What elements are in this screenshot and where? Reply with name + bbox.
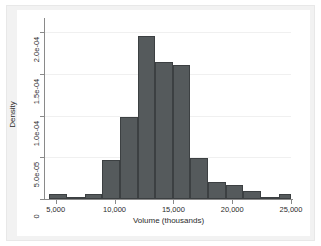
y-axis-tick — [40, 199, 44, 200]
x-axis-tick — [173, 200, 174, 204]
histogram-bar — [190, 158, 208, 199]
gridline-y-4 — [44, 32, 291, 33]
x-axis-line — [44, 199, 293, 200]
histogram-bar — [226, 185, 244, 199]
y-axis-title: Density — [8, 101, 17, 128]
y-axis-tick — [40, 32, 44, 33]
x-axis-tick-label: 5,000 — [46, 205, 65, 214]
histogram-bar — [138, 36, 156, 199]
x-axis-title: Volume (thousands) — [44, 216, 293, 225]
histogram-bar — [208, 182, 226, 199]
x-axis-tick-label: 10,000 — [103, 205, 126, 214]
histogram-bar — [102, 160, 120, 199]
y-axis-tick-label: 2.0e-04 — [32, 32, 41, 68]
y-axis-tick — [40, 116, 44, 117]
x-axis-tick-label: 15,000 — [162, 205, 185, 214]
histogram-bar — [243, 191, 261, 199]
histogram-bar — [120, 117, 138, 199]
histogram-bar — [155, 62, 173, 199]
y-axis-tick-label: 1.0e-04 — [32, 115, 41, 151]
y-axis-tick — [40, 74, 44, 75]
x-axis-tick — [291, 200, 292, 204]
histogram-figure: Density Volume (thousands) 05.0e-051.0e-… — [0, 0, 321, 246]
x-axis-tick — [232, 200, 233, 204]
y-axis-tick — [40, 157, 44, 158]
histogram-bar — [173, 65, 191, 199]
y-axis-line — [44, 18, 45, 200]
y-axis-tick-label: 1.5e-04 — [32, 74, 41, 110]
y-axis-tick-label: 0 — [32, 199, 41, 235]
x-axis-tick-label: 25,000 — [280, 205, 303, 214]
plot-area — [44, 20, 291, 199]
y-axis-tick-label: 5.0e-05 — [32, 157, 41, 193]
x-axis-tick — [115, 200, 116, 204]
x-axis-tick-label: 20,000 — [221, 205, 244, 214]
x-axis-tick — [56, 200, 57, 204]
